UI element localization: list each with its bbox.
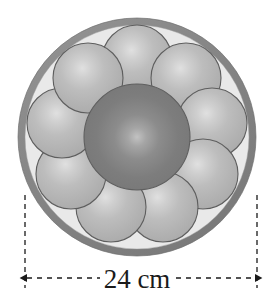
circle-packing-diagram: 24 cm (0, 0, 270, 295)
dimension-label: 24 cm (104, 264, 171, 294)
center-sphere (84, 84, 190, 190)
figure-root: 24 cm (0, 0, 270, 295)
